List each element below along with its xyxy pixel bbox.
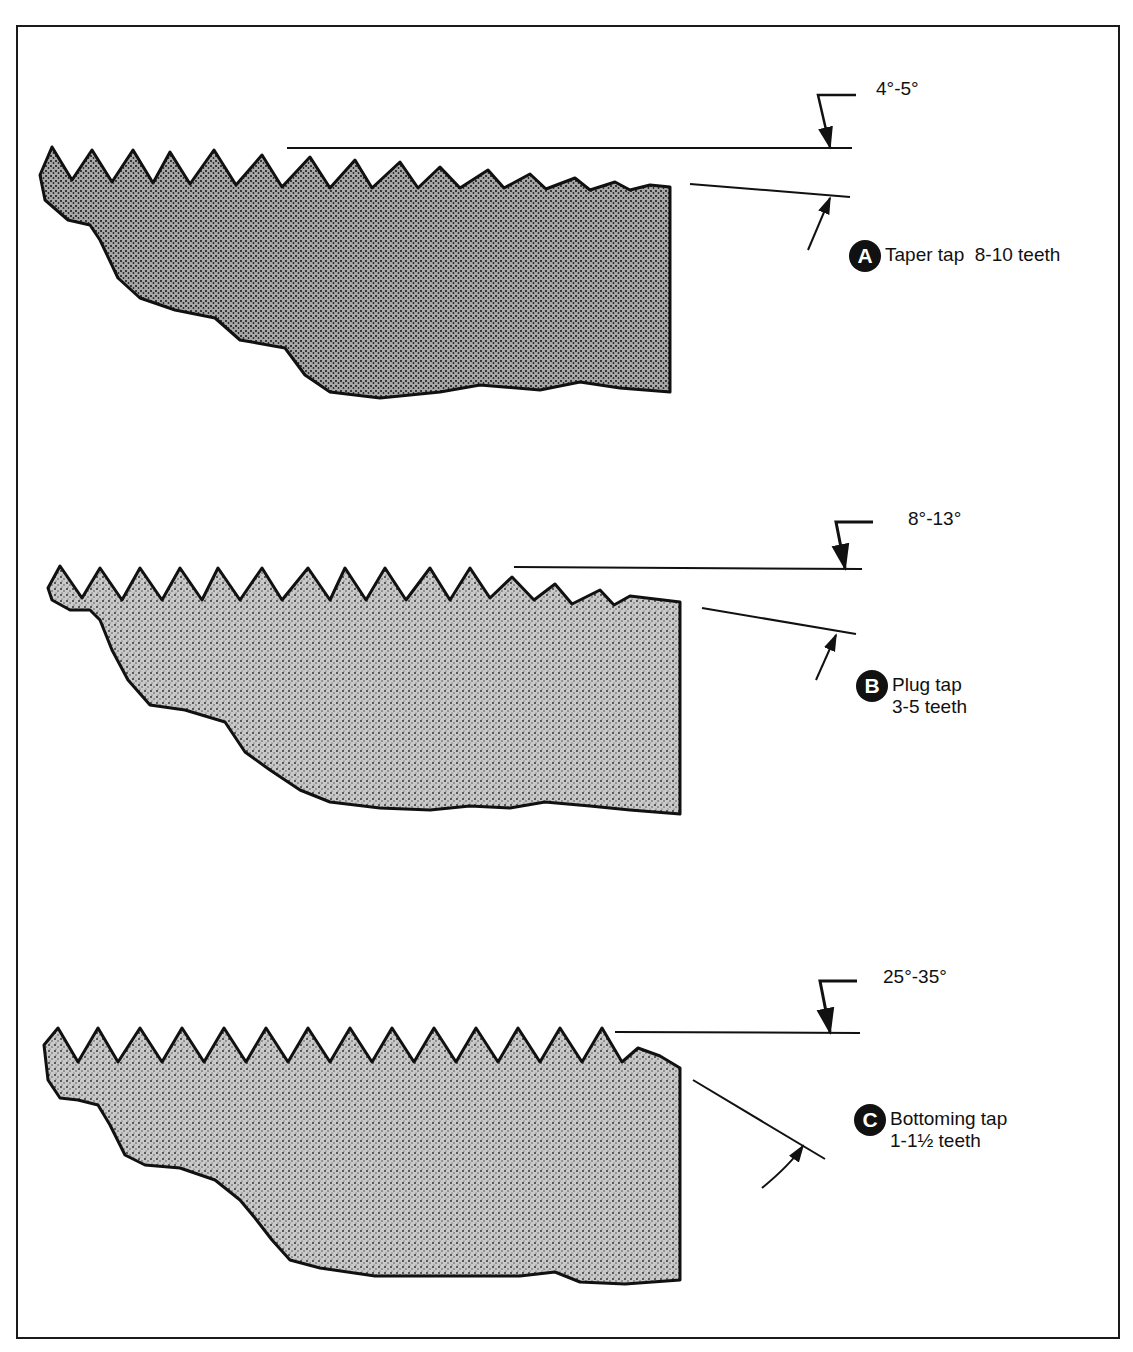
angle-label-a: 4°-5°	[876, 78, 919, 100]
tap-profile-c	[44, 1028, 680, 1284]
badge-b: B	[856, 670, 888, 702]
angle-label-b: 8°-13°	[908, 508, 961, 530]
badge-a: A	[849, 240, 881, 272]
caption-c-line1: Bottoming tap	[890, 1108, 1007, 1130]
caption-c: C Bottoming tap 1-1½ teeth	[854, 1104, 1007, 1152]
caption-a: A Taper tap 8-10 teeth	[849, 240, 1060, 272]
tap-profile-a	[40, 147, 670, 398]
angle-label-c: 25°-35°	[883, 966, 947, 988]
badge-c: C	[854, 1104, 886, 1136]
caption-b-line2: 3-5 teeth	[892, 696, 967, 718]
caption-c-line2: 1-1½ teeth	[890, 1130, 1007, 1152]
caption-b: B Plug tap 3-5 teeth	[856, 670, 967, 718]
caption-a-line1: Taper tap 8-10 teeth	[885, 244, 1060, 266]
tap-profile-b	[48, 566, 680, 814]
caption-b-line1: Plug tap	[892, 674, 967, 696]
